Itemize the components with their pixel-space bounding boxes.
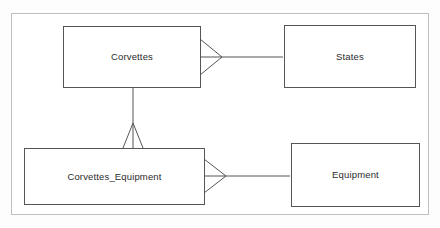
entity-corvettes-label: Corvettes bbox=[111, 52, 153, 62]
diagram-frame: Corvettes States Corvettes_Equipment Equ… bbox=[11, 13, 429, 215]
crowfoot-corvettes-equipment bbox=[123, 123, 143, 148]
entity-corvettes-equipment[interactable]: Corvettes_Equipment bbox=[24, 148, 205, 205]
entity-corvettes-equipment-label: Corvettes_Equipment bbox=[67, 172, 161, 182]
entity-equipment-label: Equipment bbox=[332, 170, 379, 180]
er-diagram: Corvettes States Corvettes_Equipment Equ… bbox=[0, 0, 440, 228]
entity-corvettes[interactable]: Corvettes bbox=[63, 26, 201, 88]
relationship-corvettes-equipment-equipment bbox=[204, 159, 290, 193]
relationship-corvettes-corvettes-equipment bbox=[123, 88, 143, 148]
entity-states-label: States bbox=[336, 52, 364, 62]
crowfoot-corvettes-states bbox=[200, 39, 222, 75]
crowfoot-corvettes-equipment-equipment bbox=[204, 159, 226, 193]
relationship-corvettes-states bbox=[200, 39, 283, 75]
entity-equipment[interactable]: Equipment bbox=[291, 143, 420, 207]
entity-states[interactable]: States bbox=[284, 25, 416, 88]
